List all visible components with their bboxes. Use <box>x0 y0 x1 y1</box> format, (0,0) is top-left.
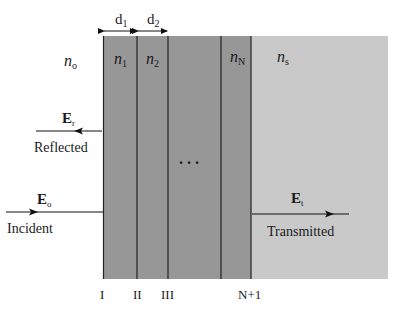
thin-film-diagram: d1 d2 no n1 n2 nN ns . . . Er Reflected … <box>0 0 393 313</box>
substrate <box>251 36 388 279</box>
transmitted-label: Transmitted <box>267 224 334 239</box>
interface-label-1: I <box>100 287 104 302</box>
n0-label: no <box>64 52 77 71</box>
reflected-label: Reflected <box>34 140 88 155</box>
ellipsis: . . . <box>179 150 199 167</box>
Er-label: Er <box>62 110 75 128</box>
interface-label-2: II <box>133 287 142 302</box>
d1-label: d1 <box>115 11 128 29</box>
interface-label-3: III <box>161 287 174 302</box>
interface-label-n-plus-1: N+1 <box>238 287 261 302</box>
layer-stack <box>103 36 251 279</box>
d2-label: d2 <box>147 11 160 29</box>
incident-label: Incident <box>7 221 53 236</box>
Eo-label: Eo <box>37 191 52 209</box>
